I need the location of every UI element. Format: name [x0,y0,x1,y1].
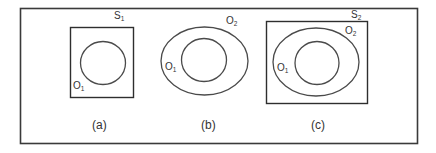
caption-b: (b) [201,118,216,132]
label-o2: O2 [345,25,357,37]
label-s1: S1 [114,10,125,22]
label-o1: O1 [165,61,177,73]
panel-c: S2 O2 O1 (c) [267,9,368,132]
label-s2: S2 [351,9,362,21]
circle-o1 [182,39,227,82]
circle-o1 [295,42,339,85]
ellipse-o2 [161,27,248,95]
set-diagram: S1 O1 (a) O2 O1 (b) S2 O2 O1 (c) [0,0,436,153]
panel-a: S1 O1 (a) [71,10,134,132]
caption-a: (a) [92,118,107,132]
label-o1: O1 [277,62,289,74]
caption-c: (c) [311,118,325,132]
label-o1: O1 [73,80,85,92]
panel-b: O2 O1 (b) [161,15,248,132]
circle-o1 [81,42,126,85]
label-o2: O2 [226,15,238,27]
ellipse-o2 [273,28,359,96]
